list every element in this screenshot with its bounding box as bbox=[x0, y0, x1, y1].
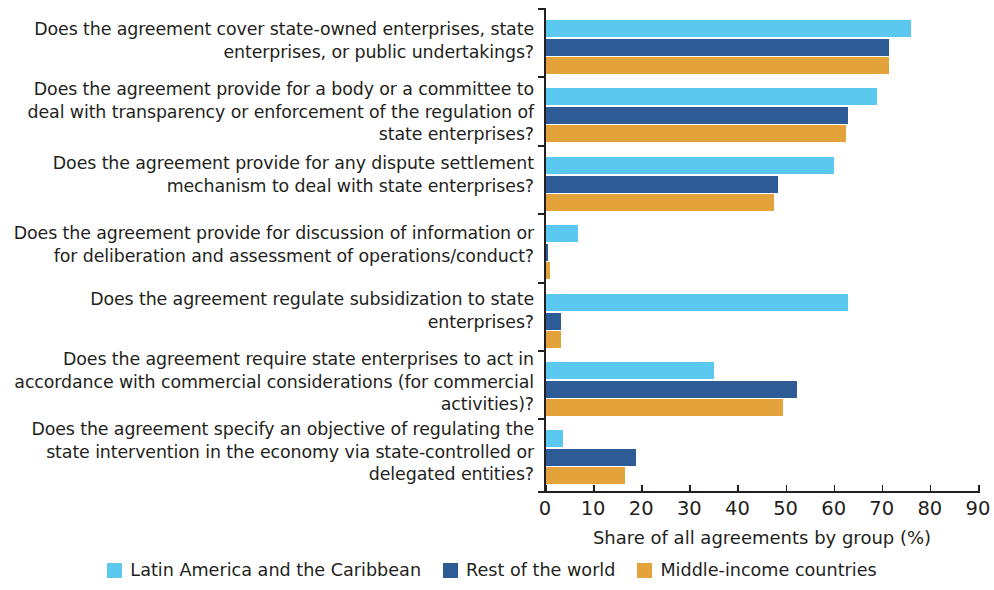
category-label: Does the agreement cover state-owned ent… bbox=[0, 18, 534, 63]
bar-2 bbox=[545, 194, 774, 211]
legend-label: Latin America and the Caribbean bbox=[130, 560, 421, 580]
x-tick bbox=[641, 485, 643, 493]
bar-2 bbox=[545, 125, 846, 142]
legend-item-1: Rest of the world bbox=[443, 560, 615, 580]
x-tick bbox=[689, 485, 691, 493]
x-tick bbox=[737, 485, 739, 493]
category-label: Does the agreement provide for a body or… bbox=[0, 78, 534, 146]
category-row: Does the agreement provide for discussio… bbox=[0, 213, 984, 282]
bar-0 bbox=[545, 20, 911, 37]
legend-label: Rest of the world bbox=[466, 560, 615, 580]
legend-item-0: Latin America and the Caribbean bbox=[107, 560, 421, 580]
x-tick-label: 70 bbox=[858, 497, 906, 520]
legend-swatch-icon bbox=[443, 563, 458, 578]
bar-0 bbox=[545, 157, 834, 174]
bar-1 bbox=[545, 449, 636, 466]
bar-2 bbox=[545, 331, 561, 348]
bar-group bbox=[545, 76, 984, 145]
y-category-tick bbox=[538, 418, 546, 420]
bar-0 bbox=[545, 362, 714, 379]
bar-0 bbox=[545, 430, 563, 447]
y-category-tick bbox=[538, 8, 546, 10]
category-row: Does the agreement require state enterpr… bbox=[0, 350, 984, 418]
x-tick bbox=[882, 485, 884, 493]
bar-2 bbox=[545, 57, 889, 74]
legend-label: Middle-income countries bbox=[660, 560, 876, 580]
x-tick-label: 50 bbox=[762, 497, 810, 520]
x-tick-label: 10 bbox=[569, 497, 617, 520]
x-axis-line bbox=[544, 491, 978, 493]
category-row: Does the agreement provide for any dispu… bbox=[0, 145, 984, 213]
x-tick-label: 60 bbox=[810, 497, 858, 520]
category-row: Does the agreement provide for a body or… bbox=[0, 76, 984, 145]
x-tick bbox=[978, 485, 980, 493]
bar-1 bbox=[545, 39, 889, 56]
category-row: Does the agreement specify an objective … bbox=[0, 418, 984, 491]
chart-legend: Latin America and the CaribbeanRest of t… bbox=[0, 560, 984, 580]
category-label: Does the agreement require state enterpr… bbox=[0, 348, 534, 416]
category-label: Does the agreement provide for discussio… bbox=[0, 222, 534, 267]
category-label: Does the agreement provide for any dispu… bbox=[0, 152, 534, 197]
bar-group bbox=[545, 350, 984, 418]
bar-0 bbox=[545, 294, 848, 311]
bar-1 bbox=[545, 313, 561, 330]
legend-item-2: Middle-income countries bbox=[637, 560, 876, 580]
x-tick-label: 40 bbox=[713, 497, 761, 520]
x-tick-label: 30 bbox=[665, 497, 713, 520]
x-axis-title: Share of all agreements by group (%) bbox=[545, 527, 979, 548]
legend-swatch-icon bbox=[107, 563, 122, 578]
bar-2 bbox=[545, 399, 783, 416]
y-category-tick bbox=[538, 491, 546, 493]
plot-area: Does the agreement cover state-owned ent… bbox=[0, 0, 984, 500]
x-tick-label: 80 bbox=[906, 497, 954, 520]
legend-swatch-icon bbox=[637, 563, 652, 578]
x-tick-label: 20 bbox=[617, 497, 665, 520]
y-category-tick bbox=[538, 213, 546, 215]
y-category-tick bbox=[538, 145, 546, 147]
bar-1 bbox=[545, 107, 848, 124]
x-tick bbox=[834, 485, 836, 493]
category-row: Does the agreement regulate subsidizatio… bbox=[0, 282, 984, 350]
bar-group bbox=[545, 213, 984, 282]
category-row: Does the agreement cover state-owned ent… bbox=[0, 8, 984, 76]
bar-group bbox=[545, 282, 984, 350]
bar-1 bbox=[545, 176, 778, 193]
bar-0 bbox=[545, 225, 578, 242]
x-tick-label: 90 bbox=[954, 497, 994, 520]
bar-0 bbox=[545, 88, 877, 105]
x-tick bbox=[930, 485, 932, 493]
category-label: Does the agreement regulate subsidizatio… bbox=[0, 288, 534, 333]
bar-2 bbox=[545, 467, 625, 484]
bar-1 bbox=[545, 381, 797, 398]
x-tick bbox=[593, 485, 595, 493]
bar-group bbox=[545, 418, 984, 491]
bar-group bbox=[545, 8, 984, 76]
bar-group bbox=[545, 145, 984, 213]
x-tick-label: 0 bbox=[521, 497, 569, 520]
y-category-tick bbox=[538, 282, 546, 284]
y-category-tick bbox=[538, 76, 546, 78]
y-category-tick bbox=[538, 350, 546, 352]
x-tick bbox=[786, 485, 788, 493]
category-label: Does the agreement specify an objective … bbox=[0, 418, 534, 486]
